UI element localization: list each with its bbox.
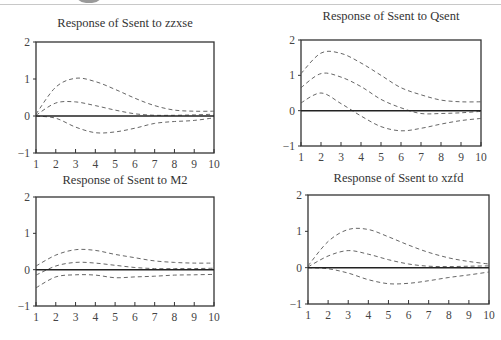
panel-title: Response of Ssent to zzxse	[57, 16, 193, 30]
series-lower-band	[36, 274, 214, 287]
x-tick-label: 3	[345, 309, 351, 321]
x-tick-label: 8	[172, 311, 178, 323]
y-tick-label: 2	[24, 36, 30, 48]
x-tick-label: 9	[191, 311, 197, 323]
series-lower-band	[301, 93, 481, 131]
y-tick-label: −1	[290, 298, 302, 310]
x-tick-label: 4	[358, 151, 364, 163]
y-tick-label: −1	[283, 140, 295, 152]
x-tick-label: 6	[132, 158, 138, 170]
x-tick-label: 4	[365, 309, 371, 321]
x-tick-label: 9	[466, 309, 472, 321]
series-upper-band	[36, 78, 214, 114]
x-tick-label: 7	[426, 309, 432, 321]
x-tick-label: 10	[208, 311, 220, 323]
series-upper-band	[308, 228, 489, 266]
plot-frame	[308, 195, 489, 304]
y-tick-label: 2	[24, 191, 30, 203]
x-tick-label: 2	[318, 151, 324, 163]
irf-panel-3: Response of Ssent to M2−101212345678910	[18, 173, 220, 323]
x-tick-label: 2	[53, 311, 59, 323]
x-tick-label: 7	[152, 158, 158, 170]
y-tick-label: 2	[296, 189, 302, 201]
x-tick-label: 6	[132, 311, 138, 323]
x-tick-label: 8	[438, 151, 444, 163]
x-tick-label: 5	[112, 311, 118, 323]
plot-frame	[36, 197, 214, 306]
irf-panel-1: Response of Ssent to zzxse−1012123456789…	[18, 16, 220, 170]
x-tick-label: 3	[73, 158, 79, 170]
x-tick-label: 5	[112, 158, 118, 170]
x-tick-label: 6	[406, 309, 412, 321]
panel-title: Response of Ssent to Qsent	[323, 9, 460, 23]
panel-title: Response of Ssent to M2	[63, 173, 188, 187]
x-tick-label: 3	[338, 151, 344, 163]
irf-panel-4: Response of Ssent to xzfd−10121234567891…	[290, 171, 495, 321]
x-tick-label: 3	[73, 311, 79, 323]
series-lower-band	[308, 268, 489, 284]
x-tick-label: 10	[475, 151, 487, 163]
y-tick-label: 1	[24, 73, 30, 85]
x-tick-label: 1	[298, 151, 304, 163]
x-tick-label: 7	[418, 151, 424, 163]
y-tick-label: 0	[24, 264, 30, 276]
y-tick-label: 1	[24, 227, 30, 239]
x-tick-label: 2	[325, 309, 331, 321]
plot-frame	[301, 40, 481, 146]
series-upper-band	[36, 249, 214, 266]
series-response	[301, 73, 481, 114]
x-tick-label: 10	[208, 158, 220, 170]
y-tick-label: 0	[296, 262, 302, 274]
x-tick-label: 8	[446, 309, 452, 321]
x-tick-label: 4	[92, 158, 98, 170]
y-tick-label: 1	[296, 225, 302, 237]
y-tick-label: −1	[18, 147, 30, 159]
series-response	[36, 262, 214, 275]
x-tick-label: 1	[305, 309, 311, 321]
x-tick-label: 1	[33, 158, 39, 170]
x-tick-label: 2	[53, 158, 59, 170]
x-tick-label: 8	[172, 158, 178, 170]
x-tick-label: 10	[483, 309, 495, 321]
x-tick-label: 1	[33, 311, 39, 323]
impulse-response-figure: Response of Ssent to zzxse−1012123456789…	[0, 0, 501, 340]
x-tick-label: 5	[386, 309, 392, 321]
x-tick-label: 5	[378, 151, 384, 163]
y-tick-label: 0	[289, 105, 295, 117]
x-tick-label: 4	[92, 311, 98, 323]
series-response	[308, 251, 489, 267]
panel-title: Response of Ssent to xzfd	[334, 171, 465, 185]
series-lower-band	[36, 116, 214, 133]
irf-panel-2: Response of Ssent to Qsent−1012123456789…	[283, 9, 487, 163]
x-tick-label: 7	[152, 311, 158, 323]
y-tick-label: −1	[18, 300, 30, 312]
y-tick-label: 1	[289, 69, 295, 81]
y-tick-label: 0	[24, 110, 30, 122]
series-upper-band	[301, 51, 481, 102]
x-tick-label: 6	[398, 151, 404, 163]
series-response	[36, 101, 214, 115]
y-tick-label: 2	[289, 34, 295, 46]
x-tick-label: 9	[458, 151, 464, 163]
plot-frame	[36, 42, 214, 153]
x-tick-label: 9	[191, 158, 197, 170]
